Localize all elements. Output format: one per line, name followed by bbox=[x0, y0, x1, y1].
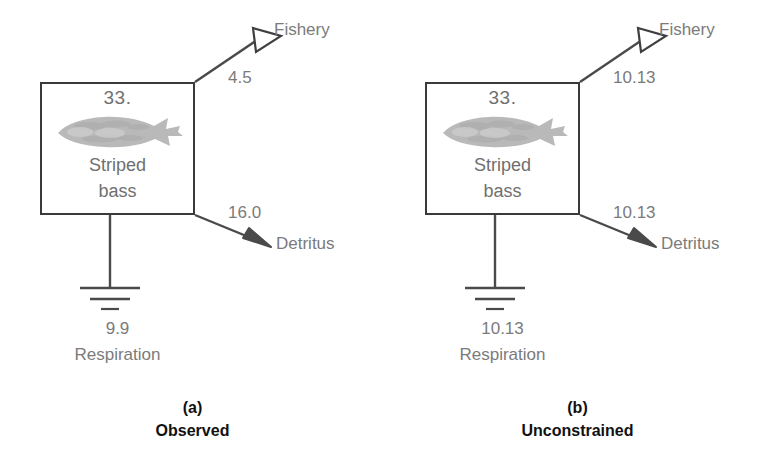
respiration-flow-value: 9.9 bbox=[40, 316, 195, 342]
fishery-target-label: Fishery bbox=[659, 20, 715, 40]
detritus-arrowhead-filled bbox=[628, 228, 656, 247]
detritus-flow-value: 16.0 bbox=[228, 203, 261, 223]
panel-unconstrained: 33. bbox=[385, 0, 770, 469]
fishery-flow-value: 10.13 bbox=[613, 68, 656, 88]
compartment-biomass: 33. bbox=[427, 87, 578, 109]
compartment-name-line1: Striped bbox=[42, 152, 193, 178]
detritus-target-label: Detritus bbox=[661, 234, 720, 254]
fishery-flow-value: 4.5 bbox=[228, 68, 252, 88]
striped-bass-silhouette-icon bbox=[435, 112, 574, 152]
panel-caption-label-a: Observed bbox=[0, 419, 385, 442]
compartment-name-line2: bass bbox=[42, 178, 193, 204]
detritus-target-label: Detritus bbox=[276, 234, 335, 254]
panel-caption-label-b: Unconstrained bbox=[385, 419, 770, 442]
striped-bass-silhouette-icon bbox=[50, 112, 189, 152]
detritus-flow-value: 10.13 bbox=[613, 203, 656, 223]
fishery-target-label: Fishery bbox=[274, 20, 330, 40]
panel-observed: 33. bbox=[0, 0, 385, 469]
respiration-annotation: 10.13 Respiration bbox=[425, 316, 580, 367]
compartment-name: Striped bass bbox=[427, 152, 578, 204]
panel-caption-b: (b) Unconstrained bbox=[385, 396, 770, 442]
panel-caption-letter-b: (b) bbox=[385, 396, 770, 419]
compartment-name-line1: Striped bbox=[427, 152, 578, 178]
flow-network-figure: 33. bbox=[0, 0, 771, 469]
respiration-target-label: Respiration bbox=[425, 342, 580, 368]
compartment-box-striped-bass: 33. bbox=[425, 82, 580, 215]
detritus-arrowhead-filled bbox=[243, 228, 271, 247]
panel-caption-a: (a) Observed bbox=[0, 396, 385, 442]
panel-caption-letter-a: (a) bbox=[0, 396, 385, 419]
compartment-box-striped-bass: 33. bbox=[40, 82, 195, 215]
compartment-name: Striped bass bbox=[42, 152, 193, 204]
compartment-name-line2: bass bbox=[427, 178, 578, 204]
compartment-biomass: 33. bbox=[42, 87, 193, 109]
respiration-target-label: Respiration bbox=[40, 342, 195, 368]
respiration-flow-value: 10.13 bbox=[425, 316, 580, 342]
respiration-annotation: 9.9 Respiration bbox=[40, 316, 195, 367]
